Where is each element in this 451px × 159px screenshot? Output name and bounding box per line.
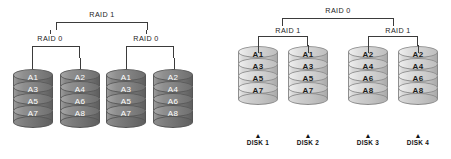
raid-01-group-label-1: RAID 0 — [22, 34, 78, 43]
raid-01-stem-left — [50, 30, 51, 34]
raid-10-group-label-1: RAID 1 — [260, 26, 316, 35]
raid-10-top-bracket — [282, 18, 394, 26]
raid-10-group-bracket-1 — [258, 36, 308, 46]
spindle-icon — [258, 45, 259, 53]
raid-10-disk-4-caption: ▲ DISK 4 — [396, 133, 440, 146]
raid-10-disk-3[interactable]: A2 A4 A6 A8 — [348, 51, 388, 99]
raid-01-disk-2[interactable]: A2 A4 A6 A8 — [60, 69, 100, 122]
raid-01-disk-4[interactable]: A2 A4 A6 A8 — [153, 69, 193, 122]
disk-caption-label: DISK 4 — [396, 139, 440, 146]
raid-01-disk-1[interactable]: A1 A3 A5 A7 — [13, 69, 53, 122]
raid-10-group-bracket-2 — [368, 36, 418, 46]
disk-caption-label: DISK 1 — [236, 139, 280, 146]
disk-caption-label: DISK 3 — [346, 139, 390, 146]
diagram-canvas: RAID 1 RAID 0 RAID 0 A1 A3 A5 A7 A2 A4 A… — [0, 0, 451, 159]
raid-10-panel: RAID 0 RAID 1 RAID 1 A1 A3 A5 A7 A1 A3 — [226, 0, 451, 159]
raid-01-panel: RAID 1 RAID 0 RAID 0 A1 A3 A5 A7 A2 A4 A… — [0, 0, 226, 159]
raid-01-top-bracket — [56, 22, 148, 30]
disk-caption-label: DISK 2 — [286, 139, 330, 146]
raid-10-disk-1[interactable]: A1 A3 A5 A7 — [238, 51, 278, 99]
raid-10-disk-2-caption: ▲ DISK 2 — [286, 133, 330, 146]
raid-01-group-label-2: RAID 0 — [118, 34, 174, 43]
raid-01-stem-right — [146, 30, 147, 34]
spindle-icon — [418, 45, 419, 53]
spindle-icon — [368, 45, 369, 53]
raid-01-group-bracket-2 — [126, 46, 174, 58]
raid-10-disk-2[interactable]: A1 A3 A5 A7 — [288, 51, 328, 99]
raid-01-disk-3[interactable]: A1 A3 A5 A7 — [106, 69, 146, 122]
raid-10-disk-1-caption: ▲ DISK 1 — [236, 133, 280, 146]
raid-01-top-label: RAID 1 — [74, 10, 130, 19]
raid-10-disk-4[interactable]: A2 A4 A6 A8 — [398, 51, 438, 99]
raid-01-group-bracket-1 — [32, 46, 80, 58]
raid-10-disk-3-caption: ▲ DISK 3 — [346, 133, 390, 146]
raid-10-group-label-2: RAID 1 — [370, 26, 426, 35]
spindle-icon — [308, 45, 309, 53]
raid-10-top-label: RAID 0 — [310, 6, 366, 15]
